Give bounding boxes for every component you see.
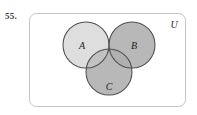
venn-diagram-figure: 55. A B [0,0,197,115]
set-b-label: B [131,40,137,51]
set-a-label: A [78,40,86,51]
venn-diagram-svg: A B C U [0,0,197,115]
universe-label: U [170,19,178,30]
set-c-label: C [106,81,113,92]
